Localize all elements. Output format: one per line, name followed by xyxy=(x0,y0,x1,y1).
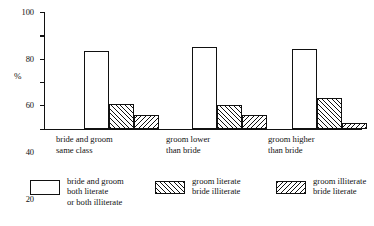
y-tick-mark: 40 xyxy=(40,82,45,83)
y-tick-mark: 20 xyxy=(40,105,45,106)
x-axis-line xyxy=(44,129,362,130)
bar xyxy=(242,115,267,129)
bar xyxy=(217,105,242,128)
y-tick-mark: 0 xyxy=(40,129,45,130)
y-axis-line xyxy=(44,12,45,130)
bar-group xyxy=(192,12,267,129)
bar xyxy=(192,47,217,129)
y-tick-label: 80 xyxy=(26,54,34,63)
legend-item: groom literate bride illiterate xyxy=(155,176,240,197)
y-tick-mark: 100 xyxy=(40,12,45,13)
y-tick-mark: 60 xyxy=(40,59,45,60)
legend-swatch xyxy=(276,181,306,194)
bar xyxy=(84,51,109,129)
bar-group xyxy=(84,12,159,129)
plot-area: 100806040200 xyxy=(44,12,362,130)
y-tick-label: 40 xyxy=(26,148,34,157)
legend-swatch xyxy=(30,180,60,195)
chart-legend: bride and groom both literate or both il… xyxy=(30,176,374,220)
category-label: bride and groom same class xyxy=(56,134,113,155)
bar-chart: % 100806040200 bride and groom same clas… xyxy=(0,0,374,226)
bar xyxy=(342,123,367,129)
legend-item: groom illiterate bride literate xyxy=(276,176,366,197)
category-label: groom higher than bride xyxy=(268,134,315,155)
bar xyxy=(317,98,342,128)
category-label: groom lower than bride xyxy=(166,134,210,155)
y-axis-label: % xyxy=(14,72,22,81)
y-tick-label: 60 xyxy=(26,101,34,110)
bar-group xyxy=(292,12,367,129)
legend-swatch xyxy=(155,181,185,194)
legend-label: groom illiterate bride literate xyxy=(313,176,366,197)
legend-label: bride and groom both literate or both il… xyxy=(67,176,124,207)
legend-label: groom literate bride illiterate xyxy=(192,176,240,197)
bar xyxy=(109,104,134,128)
legend-item: bride and groom both literate or both il… xyxy=(30,176,124,207)
y-tick-mark: 80 xyxy=(40,35,45,36)
bar xyxy=(134,115,159,129)
bar xyxy=(292,49,317,128)
y-tick-label: 100 xyxy=(22,8,34,17)
